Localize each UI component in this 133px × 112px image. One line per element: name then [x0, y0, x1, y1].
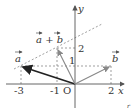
label-a-plus-b: a + b: [36, 33, 63, 45]
svg-text:b: b: [112, 53, 118, 64]
y-tick-1: 1: [69, 55, 75, 66]
svg-text:a + b: a + b: [36, 34, 63, 45]
dashed-line-through-a-and-a-plus-b: [14, 24, 102, 69]
label-b: b: [112, 52, 119, 64]
y-tick-2: 2: [78, 43, 84, 54]
x-axis-label: x: [118, 85, 124, 96]
vector-b: [75, 67, 109, 84]
corner-mark: r: [127, 102, 131, 109]
x-tick-2: 2: [108, 85, 114, 96]
x-tick-neg1: -1: [50, 85, 60, 96]
x-tick-neg3: -3: [14, 85, 24, 96]
dashed-guides: [14, 24, 111, 84]
label-a: a: [15, 52, 22, 64]
svg-text:a: a: [15, 53, 21, 64]
y-axis-label: y: [77, 3, 84, 14]
vector-diagram: y x O -3 -1 2 1 2 a b a + b r: [0, 0, 133, 112]
origin-label: O: [63, 85, 71, 96]
